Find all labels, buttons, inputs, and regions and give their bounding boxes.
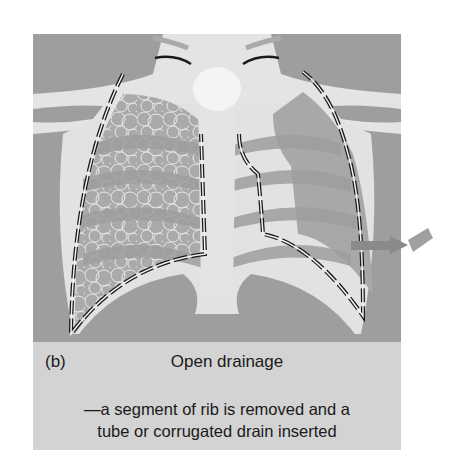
description-line-1: —a segment of rib is removed and a: [33, 398, 401, 420]
removed-rib-segment-icon: [408, 228, 433, 252]
figure-caption: (b) Open drainage —a segment of rib is r…: [33, 342, 401, 450]
figure-title: Open drainage: [33, 352, 401, 372]
figure-description: —a segment of rib is removed and a tube …: [33, 398, 401, 442]
description-line-2: tube or corrugated drain inserted: [33, 420, 401, 442]
chest-illustration: [33, 34, 401, 342]
